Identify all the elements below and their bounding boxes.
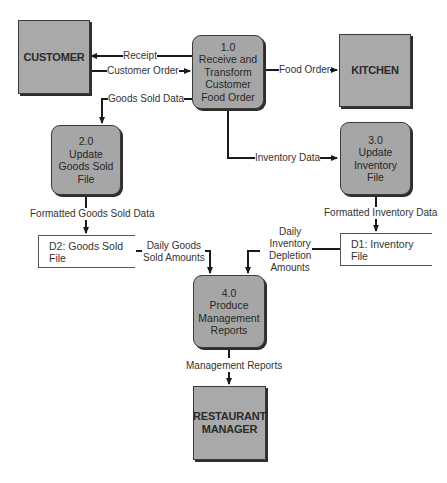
process-label-line: File xyxy=(78,173,95,186)
flow-label-daily-inventory: Daily Inventory Depletion Amounts xyxy=(269,226,311,274)
flow-label-line: Sold Amounts xyxy=(143,252,205,264)
process-label-line: Goods Sold xyxy=(59,160,114,173)
process-label-line: Update xyxy=(359,146,393,159)
process-label-line: Customer xyxy=(205,78,251,91)
process-number: 3.0 xyxy=(368,134,383,147)
process-label-line: Food Order xyxy=(201,91,255,104)
flow-daily-inventory xyxy=(248,251,260,273)
process-number: 4.0 xyxy=(222,287,237,300)
flow-label-line: Depletion xyxy=(269,250,311,262)
flow-label-formatted-inventory: Formatted Inventory Data xyxy=(324,207,437,219)
process-label-line: Receive and xyxy=(199,53,257,66)
entity-kitchen[interactable]: KITCHEN xyxy=(339,34,411,107)
process-label-line: Produce xyxy=(209,299,248,312)
process-label-line: Reports xyxy=(211,324,248,337)
entity-manager-label-line1: RESTAURANT xyxy=(193,410,266,423)
process-number: 1.0 xyxy=(221,41,236,54)
process-3-update-inventory[interactable]: 3.0 Update Inventory File xyxy=(340,122,411,195)
datastore-d2-label: D2: Goods Sold File xyxy=(49,240,135,264)
process-2-update-goods-sold[interactable]: 2.0 Update Goods Sold File xyxy=(51,125,121,195)
datastore-d1-label: D1: Inventory File xyxy=(351,238,432,262)
flow-label-line: Daily Goods xyxy=(143,240,205,252)
datastore-d2-goods-sold-file[interactable]: D2: Goods Sold File xyxy=(38,235,135,268)
process-label-line: Transform xyxy=(204,66,251,79)
flow-label-line: Inventory xyxy=(269,238,311,250)
flow-label-food-order: Food Order xyxy=(279,64,330,76)
flow-label-line: Daily xyxy=(269,226,311,238)
process-label-line: Update xyxy=(69,148,103,161)
flow-label-customer-order: Customer Order xyxy=(107,65,179,77)
flow-label-daily-goods: Daily Goods Sold Amounts xyxy=(143,240,205,264)
process-label-line: Management xyxy=(198,312,259,325)
entity-manager-label-line2: MANAGER xyxy=(202,423,257,436)
flow-label-formatted-goods: Formatted Goods Sold Data xyxy=(30,208,155,220)
flow-label-goods-sold-data: Goods Sold Data xyxy=(108,93,184,105)
process-label-line: Inventory xyxy=(354,159,397,172)
flow-inventory-data xyxy=(228,108,337,158)
process-1-receive-transform-order[interactable]: 1.0 Receive and Transform Customer Food … xyxy=(192,35,264,109)
entity-customer-label: CUSTOMER xyxy=(23,51,84,64)
datastore-d1-inventory-file[interactable]: D1: Inventory File xyxy=(340,233,432,266)
process-label-line: File xyxy=(367,171,384,184)
flow-label-line: Amounts xyxy=(269,262,311,274)
entity-restaurant-manager[interactable]: RESTAURANT MANAGER xyxy=(193,386,266,460)
process-number: 2.0 xyxy=(79,135,94,148)
entity-kitchen-label: KITCHEN xyxy=(351,64,399,77)
flow-label-management-reports: Management Reports xyxy=(186,360,282,372)
process-4-produce-reports[interactable]: 4.0 Produce Management Reports xyxy=(193,275,265,348)
flow-label-receipt: Receipt xyxy=(123,50,157,62)
entity-customer[interactable]: CUSTOMER xyxy=(18,20,90,94)
flow-label-inventory-data: Inventory Data xyxy=(255,152,320,164)
